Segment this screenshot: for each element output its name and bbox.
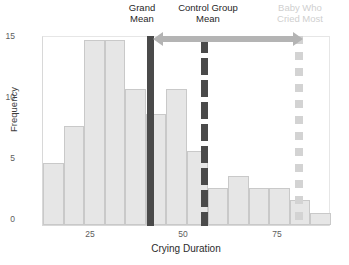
y-tick-0: 0 [0, 215, 15, 224]
bar-bin-12 [269, 188, 290, 225]
bar-bin-4 [105, 40, 126, 225]
baby-who-cried-most-label-line1: Baby Who [256, 3, 344, 14]
bar-bin-10 [228, 176, 249, 225]
y-tick-5: 5 [0, 154, 15, 163]
control-group-mean-line [201, 36, 208, 226]
bar-bin-5 [125, 89, 146, 225]
bar-bin-11 [249, 188, 270, 225]
bar-series [43, 37, 329, 225]
y-axis-label: Frequency [8, 75, 19, 145]
y-tick-15: 15 [0, 32, 15, 41]
bar-bin-9 [208, 188, 229, 225]
bar-bin-2 [64, 126, 85, 225]
x-tick-75: 75 [262, 230, 292, 239]
x-tick-50: 50 [168, 230, 198, 239]
histogram-chart: Grand Mean Control Group Mean Baby Who C… [0, 0, 349, 265]
control-group-mean-label-line2: Mean [150, 14, 266, 25]
bar-bin-14 [310, 213, 331, 225]
baby-who-cried-most-label-line2: Cried Most [256, 14, 344, 25]
bar-bin-3 [84, 40, 105, 225]
bar-bin-1 [43, 163, 64, 225]
x-axis-label: Crying Duration [42, 243, 330, 254]
arrow-head-right-icon [293, 32, 303, 46]
arrow-shaft [162, 36, 294, 42]
control-group-mean-label: Control Group Mean [150, 3, 266, 24]
baby-who-cried-most-line [295, 36, 303, 226]
plot-area [42, 36, 330, 226]
control-group-mean-label-line1: Control Group [150, 3, 266, 14]
range-arrow [153, 32, 303, 46]
baby-who-cried-most-label: Baby Who Cried Most [256, 3, 344, 24]
bar-bin-7 [166, 89, 187, 225]
x-tick-25: 25 [75, 230, 105, 239]
grand-mean-line [147, 36, 154, 226]
